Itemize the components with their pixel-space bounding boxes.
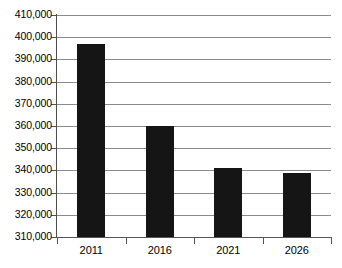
y-axis-label: 410,000	[15, 9, 52, 20]
y-axis-label: 350,000	[15, 142, 52, 153]
y-axis-label: 390,000	[15, 53, 52, 64]
gridline	[57, 37, 331, 38]
x-axis-tick	[57, 238, 58, 244]
x-axis-label-2026: 2026	[267, 245, 327, 256]
bar-chart: 310,000320,000330,000340,000350,000360,0…	[0, 0, 342, 268]
x-axis-label-2016: 2016	[130, 245, 190, 256]
x-axis-label-2021: 2021	[198, 245, 258, 256]
x-axis-tick	[263, 238, 264, 244]
y-axis-label: 310,000	[15, 231, 52, 242]
y-axis-label: 340,000	[15, 164, 52, 175]
bar-2011	[77, 44, 105, 237]
y-axis-label: 320,000	[15, 209, 52, 220]
y-axis-label: 370,000	[15, 98, 52, 109]
bar-2026	[283, 173, 311, 237]
bar-2021	[214, 168, 242, 237]
y-axis-label: 360,000	[15, 120, 52, 131]
x-axis-tick	[194, 238, 195, 244]
y-axis-label: 380,000	[15, 76, 52, 87]
y-axis-label: 330,000	[15, 187, 52, 198]
bar-2016	[146, 126, 174, 237]
plot-area	[57, 15, 331, 237]
x-axis-tick	[126, 238, 127, 244]
y-axis-label: 400,000	[15, 31, 52, 42]
x-axis-label-2011: 2011	[61, 245, 121, 256]
x-axis-tick	[331, 238, 332, 244]
gridline	[57, 15, 331, 16]
